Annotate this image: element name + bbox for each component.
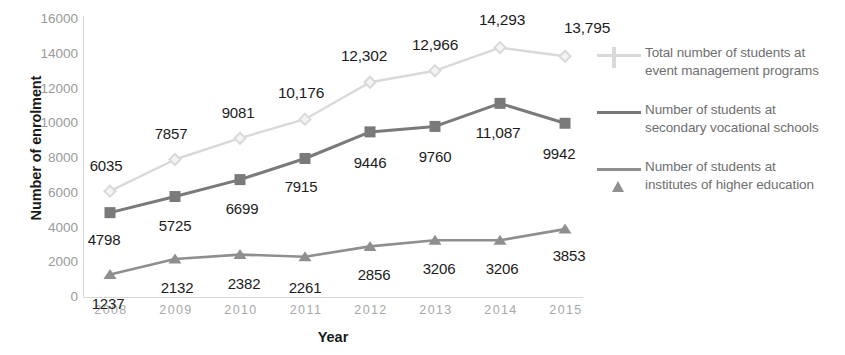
data-label: 2132 xyxy=(161,278,194,295)
y-axis-tick: 0 xyxy=(18,289,78,304)
legend-label-secondary-vocational: Number of students at secondary vocation… xyxy=(645,101,819,136)
x-axis-line xyxy=(83,297,583,298)
legend-marker-triangle-icon xyxy=(597,160,641,177)
data-point-marker xyxy=(300,153,311,164)
data-point-marker xyxy=(364,241,377,251)
data-label: 9760 xyxy=(419,148,452,165)
legend-label-higher-education: Number of students at institutes of high… xyxy=(645,158,814,193)
x-axis-tick: 2014 xyxy=(466,303,536,317)
x-axis-tick: 2010 xyxy=(206,303,276,317)
data-label: 3206 xyxy=(486,260,519,277)
y-axis-tick: 8000 xyxy=(18,150,78,165)
data-label: 14,293 xyxy=(479,11,525,29)
data-point-marker xyxy=(560,51,571,62)
data-label: 11,087 xyxy=(475,124,520,142)
data-label: 4798 xyxy=(88,230,121,247)
data-point-marker xyxy=(559,224,572,234)
y-axis-tick: 10000 xyxy=(18,115,78,130)
series-1 xyxy=(105,98,571,218)
x-axis-tick: 2013 xyxy=(401,303,471,317)
data-label: 12,966 xyxy=(412,36,458,54)
data-point-marker xyxy=(104,269,117,279)
data-label: 9446 xyxy=(354,153,387,170)
y-axis-tick: 12000 xyxy=(18,80,78,95)
legend-item-secondary-vocational[interactable]: Number of students at secondary vocation… xyxy=(597,101,845,136)
data-label: 13,795 xyxy=(564,19,610,37)
series-line xyxy=(110,48,565,191)
data-point-marker xyxy=(429,235,442,245)
legend-item-total[interactable]: Total number of students at event manage… xyxy=(597,44,845,79)
y-axis-tick: 16000 xyxy=(18,11,78,26)
y-axis-line xyxy=(83,16,84,298)
legend-item-higher-education[interactable]: Number of students at institutes of high… xyxy=(597,158,845,193)
data-label: 2261 xyxy=(289,278,322,295)
data-label: 1237 xyxy=(92,294,125,311)
series-0 xyxy=(105,42,571,196)
data-point-marker xyxy=(105,207,116,218)
data-label: 7857 xyxy=(155,125,188,142)
data-point-marker xyxy=(234,249,247,259)
data-point-marker xyxy=(105,186,116,197)
data-point-marker xyxy=(495,42,506,53)
data-point-marker xyxy=(365,77,376,88)
y-axis-tick: 2000 xyxy=(18,254,78,269)
x-axis-tick: 2015 xyxy=(531,303,601,317)
data-point-marker xyxy=(299,251,312,261)
data-label: 2856 xyxy=(358,266,391,283)
data-point-marker xyxy=(494,235,507,245)
x-axis-tick: 2012 xyxy=(336,303,406,317)
x-axis-title: Year xyxy=(83,329,583,345)
data-point-marker xyxy=(170,191,181,202)
data-label: 9081 xyxy=(222,104,255,121)
data-label: 3853 xyxy=(553,247,586,264)
data-point-marker xyxy=(235,174,246,185)
x-axis-tick: 2011 xyxy=(271,303,341,317)
y-axis-tick: 6000 xyxy=(18,184,78,199)
data-label: 5725 xyxy=(159,216,192,233)
data-label: 7915 xyxy=(285,178,318,195)
data-point-marker xyxy=(170,154,181,165)
data-label: 3206 xyxy=(423,260,456,277)
chart-legend: Total number of students at event manage… xyxy=(597,44,845,215)
data-label: 6035 xyxy=(90,157,123,174)
data-point-marker xyxy=(365,126,376,137)
legend-marker-square-icon xyxy=(597,103,641,120)
data-label: 6699 xyxy=(226,199,259,216)
data-point-marker xyxy=(300,114,311,125)
legend-label-total: Total number of students at event manage… xyxy=(645,44,819,79)
data-point-marker xyxy=(430,65,441,76)
y-axis-tick: 14000 xyxy=(18,45,78,60)
data-label: 2382 xyxy=(228,274,261,291)
legend-marker-diamond-icon xyxy=(597,46,641,63)
data-point-marker xyxy=(560,118,571,129)
data-point-marker xyxy=(430,121,441,132)
data-point-marker xyxy=(169,253,182,263)
enrolment-line-chart: Number of enrolment Year 020004000600080… xyxy=(0,0,845,355)
y-axis-tick: 4000 xyxy=(18,219,78,234)
data-point-marker xyxy=(235,133,246,144)
y-axis-tick-labels: 0200040006000800010000120001400016000 xyxy=(18,0,78,355)
data-point-marker xyxy=(495,98,506,109)
x-axis-tick: 2009 xyxy=(141,303,211,317)
data-label: 9942 xyxy=(543,145,576,162)
data-label: 12,302 xyxy=(341,47,387,65)
series-line xyxy=(110,103,565,212)
data-label: 10,176 xyxy=(278,84,324,102)
